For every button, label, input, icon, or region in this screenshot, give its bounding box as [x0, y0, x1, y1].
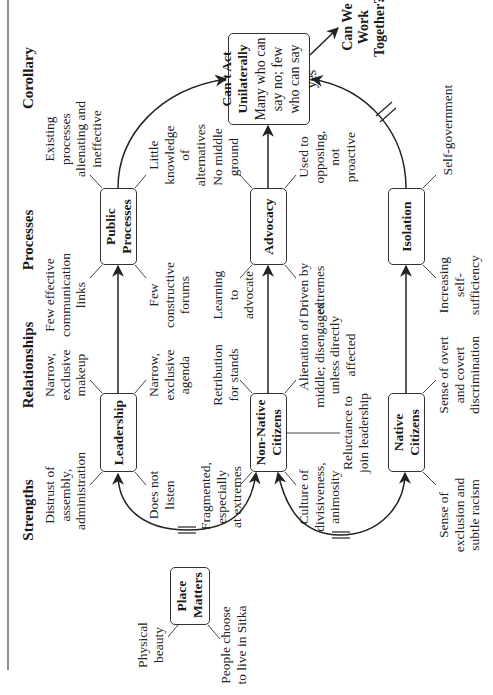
note: Reluctance to join leadership	[340, 388, 371, 478]
node-advocacy: Advocacy	[250, 188, 287, 265]
arrow-loop-to-native	[340, 473, 405, 535]
note: Physical beauty	[135, 620, 166, 670]
column-heading-corollary: Corollary	[20, 47, 37, 109]
note: People choose to live in Sitka	[218, 602, 249, 688]
node-public-processes: Public Processes	[100, 188, 137, 265]
note: Sense of exclusion and subtle racism	[436, 465, 483, 565]
note: No middle ground	[210, 127, 241, 187]
node-title: Place Matters	[174, 574, 206, 618]
node-title: Native Citizens	[391, 403, 423, 463]
node-subtitle: Many who can say no; few who can say yes	[252, 36, 320, 122]
column-heading-strengths: Strengths	[20, 479, 37, 540]
node-place-matters: Place Matters	[170, 567, 210, 625]
note: Increasing self-sufficiency	[436, 245, 483, 325]
note: Few constructive forums	[146, 255, 193, 335]
node-non-native-citizens: Non-Native Citizens	[250, 393, 287, 472]
note: Retribution for stands	[210, 344, 241, 406]
note: Sense of overt and covert discrimination	[436, 330, 483, 420]
outcome-label: Can We Work Together?	[340, 0, 388, 57]
note: Narrow, exclusive agenda	[146, 345, 193, 405]
node-title: Can't Act Unilaterally	[219, 39, 251, 119]
node-isolation: Isolation	[388, 188, 425, 265]
note: Fragmented, especially at extremes	[198, 464, 245, 530]
column-heading-relationships: Relationships	[20, 322, 37, 409]
note: Culture of divisiveness, animosity	[296, 461, 343, 533]
node-cant-act-unilaterally: Can't Act Unilaterally Many who can say …	[228, 33, 310, 125]
note: Self-government	[440, 80, 456, 180]
diagram-canvas: Strengths Relationships Processes Coroll…	[0, 0, 493, 695]
column-heading-processes: Processes	[20, 210, 37, 271]
note: Narrow, exclusive makeup	[42, 345, 89, 405]
note: Used to opposing, not proactive	[296, 122, 358, 192]
note: Does not listen	[146, 470, 177, 520]
spoke	[168, 625, 178, 637]
note: Little knowledge of alternatives	[146, 120, 208, 190]
node-leadership: Leadership	[100, 393, 137, 472]
note: Existing processes alienating and ineffe…	[42, 94, 104, 184]
node-native-citizens: Native Citizens	[388, 393, 425, 472]
note: Few effective communication links	[42, 251, 89, 339]
note: Driven by extremes	[296, 262, 327, 318]
node-title: Leadership	[111, 400, 127, 465]
note: Learning to advocate	[210, 265, 257, 325]
node-title: Non-Native Citizens	[253, 398, 285, 468]
node-title: Public Processes	[103, 195, 135, 259]
node-title: Advocacy	[261, 198, 277, 254]
node-title: Isolation	[399, 201, 415, 251]
note: Distrust of assembly, administration	[42, 460, 89, 530]
